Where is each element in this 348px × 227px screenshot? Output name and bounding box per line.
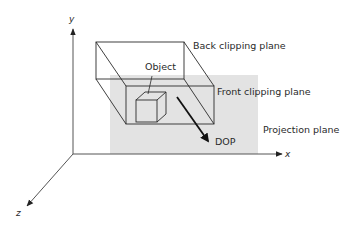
x-axis-label: x <box>284 149 291 159</box>
z-axis-label: z <box>15 208 21 218</box>
orthographic-view-volume-diagram: y x z Object Back clipping plane Front c… <box>0 0 348 227</box>
back-clipping-plane-label: Back clipping plane <box>193 40 286 51</box>
projection-plane-label: Projection plane <box>263 124 340 135</box>
dop-label: DOP <box>215 136 236 147</box>
y-axis-label: y <box>68 14 75 24</box>
front-clipping-plane-label: Front clipping plane <box>217 86 311 97</box>
z-axis <box>27 154 73 206</box>
object-label: Object <box>145 61 176 72</box>
